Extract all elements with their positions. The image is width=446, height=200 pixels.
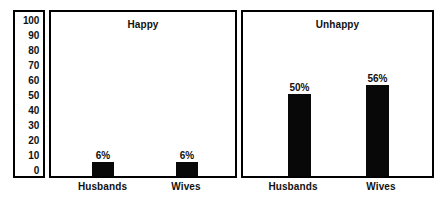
y-tick-60: 60 (15, 76, 39, 86)
panel-unhappy: Unhappy 50% 56% (241, 10, 434, 178)
y-axis-scale-box: 100 90 80 70 60 50 40 30 20 10 0 (13, 10, 45, 178)
y-tick-80: 80 (15, 46, 39, 56)
bar-happy-wives: 6% (176, 162, 198, 176)
y-tick-10: 10 (15, 151, 39, 161)
category-label-unhappy-wives: Wives (337, 181, 425, 192)
y-tick-100: 100 (15, 16, 39, 26)
bar-happy-husbands-value: 6% (96, 150, 110, 161)
category-label-happy-wives: Wives (145, 181, 227, 192)
y-tick-40: 40 (15, 106, 39, 116)
bar-unhappy-husbands-value: 50% (289, 82, 309, 93)
panel-happy-title: Happy (51, 19, 235, 30)
y-tick-0: 0 (15, 166, 39, 176)
grouped-bar-chart-figure: 100 90 80 70 60 50 40 30 20 10 0 Happy 6… (0, 0, 446, 200)
bar-happy-wives-value: 6% (180, 150, 194, 161)
bar-unhappy-wives-value: 56% (367, 73, 387, 84)
category-label-happy-husbands: Husbands (60, 181, 145, 192)
bar-happy-husbands: 6% (92, 162, 114, 176)
y-tick-90: 90 (15, 31, 39, 41)
category-label-unhappy-husbands: Husbands (249, 181, 337, 192)
bar-unhappy-wives: 56% (366, 85, 389, 176)
y-tick-30: 30 (15, 121, 39, 131)
panel-happy: Happy 6% 6% (49, 10, 237, 178)
panel-unhappy-title: Unhappy (243, 19, 432, 30)
y-tick-70: 70 (15, 61, 39, 71)
y-tick-20: 20 (15, 136, 39, 146)
y-tick-50: 50 (15, 91, 39, 101)
bar-unhappy-husbands: 50% (288, 94, 311, 176)
